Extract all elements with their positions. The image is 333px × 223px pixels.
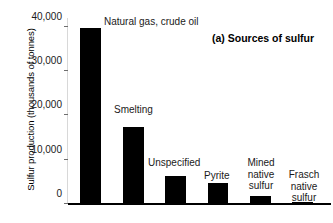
- bar-mined-native-sulfur: [250, 196, 271, 204]
- bar-label-natural-gas-crude-oil: Natural gas, crude oil: [104, 16, 199, 28]
- y-tick-label-0: 0: [56, 188, 62, 199]
- y-axis-spine: [67, 18, 68, 204]
- y-tick-label-2: 20,000: [31, 99, 62, 110]
- bar-pyrite: [208, 183, 228, 204]
- y-tick-label-3: 30,000: [31, 55, 62, 66]
- bar-unspecified: [165, 176, 186, 204]
- plot-area: 0 10,000 20,000 30,000 40,000 Natural ga…: [68, 18, 330, 204]
- bar-natural-gas-crude-oil: [80, 28, 101, 204]
- y-tick-mark-3: [64, 70, 68, 71]
- bar-label-unspecified: Unspecified: [148, 157, 200, 169]
- y-tick-mark-1: [64, 159, 68, 160]
- y-tick-mark-0: [64, 203, 68, 204]
- y-tick-mark-4: [64, 26, 68, 27]
- y-tick-label-4: 40,000: [31, 10, 62, 21]
- y-tick-mark-2: [64, 114, 68, 115]
- bar-label-frasch-native-sulfur: Frasch native sulfur: [281, 169, 327, 204]
- y-tick-label-1: 10,000: [31, 143, 62, 154]
- sulfur-sources-bar-chart: Sulfur production (thousands of tonnes) …: [0, 0, 333, 223]
- bar-label-mined-native-sulfur: Mined native sulfur: [239, 157, 283, 192]
- bar-label-smelting: Smelting: [114, 104, 153, 116]
- chart-title: (a) Sources of sulfur: [212, 32, 314, 44]
- bar-label-pyrite: Pyrite: [204, 170, 230, 182]
- bar-smelting: [123, 127, 144, 205]
